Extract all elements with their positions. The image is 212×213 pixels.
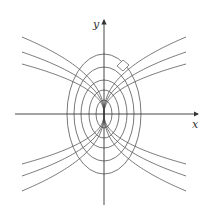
trajectory-curve	[104, 114, 186, 164]
trajectory-curve	[22, 37, 104, 114]
trajectory-curve	[104, 64, 186, 114]
trajectory-curve	[104, 114, 186, 191]
orthogonal-trajectories-diagram: y x	[0, 0, 212, 213]
y-axis-label: y	[92, 18, 100, 31]
trajectory-curve	[104, 52, 186, 114]
trajectory-curve	[104, 114, 186, 176]
x-axis-label: x	[192, 118, 199, 131]
trajectory-curve	[22, 114, 104, 191]
trajectory-curve	[22, 64, 104, 114]
right-angle-marker	[117, 60, 129, 71]
trajectory-curve	[104, 37, 186, 114]
trajectory-curve	[22, 52, 104, 114]
trajectory-curve	[22, 114, 104, 176]
trajectory-curve	[22, 114, 104, 164]
